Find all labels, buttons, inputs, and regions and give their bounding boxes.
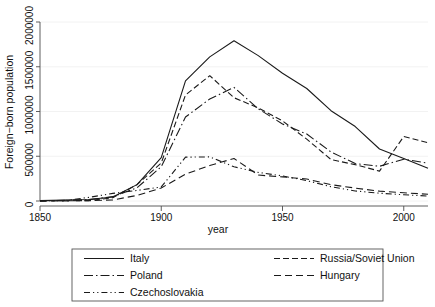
- y-tick-label-1000000: 1000000: [24, 95, 35, 134]
- x-axis-title: year: [208, 223, 229, 235]
- y-tick-label-0: 0: [24, 201, 35, 207]
- x-tick-label-1950: 1950: [271, 212, 294, 223]
- y-tick-label-1500000: 1500000: [24, 50, 35, 89]
- y-tick-label-2000000: 2000000: [24, 6, 35, 45]
- x-tick-label-1850: 1850: [29, 212, 52, 223]
- legend-label-russia-soviet-union[interactable]: Russia/Soviet Union: [320, 252, 415, 264]
- x-axis-ticks: 1850190019502000: [29, 206, 415, 223]
- series-line-italy: [40, 41, 428, 201]
- series-line-czechoslovakia: [40, 157, 428, 201]
- series-line-poland: [40, 87, 428, 200]
- x-tick-label-2000: 2000: [393, 212, 416, 223]
- gridlines: [40, 22, 428, 201]
- legend[interactable]: ItalyRussia/Soviet UnionPolandHungaryCze…: [84, 252, 415, 298]
- chart-figure: 0500000100000015000002000000 18501900195…: [0, 0, 435, 307]
- x-tick-label-1900: 1900: [150, 212, 173, 223]
- y-axis-title: Foreign−born population: [3, 55, 15, 169]
- legend-label-poland[interactable]: Poland: [130, 269, 163, 281]
- legend-label-czechoslovakia[interactable]: Czechoslovakia: [130, 286, 204, 298]
- line-chart: 0500000100000015000002000000 18501900195…: [0, 0, 435, 307]
- y-axis-ticks: 0500000100000015000002000000: [24, 6, 40, 208]
- legend-label-hungary[interactable]: Hungary: [320, 269, 360, 281]
- y-tick-label-500000: 500000: [24, 143, 35, 177]
- legend-label-italy[interactable]: Italy: [130, 252, 150, 264]
- series-line-russia-soviet-union: [40, 76, 428, 201]
- data-series-group: [40, 41, 428, 201]
